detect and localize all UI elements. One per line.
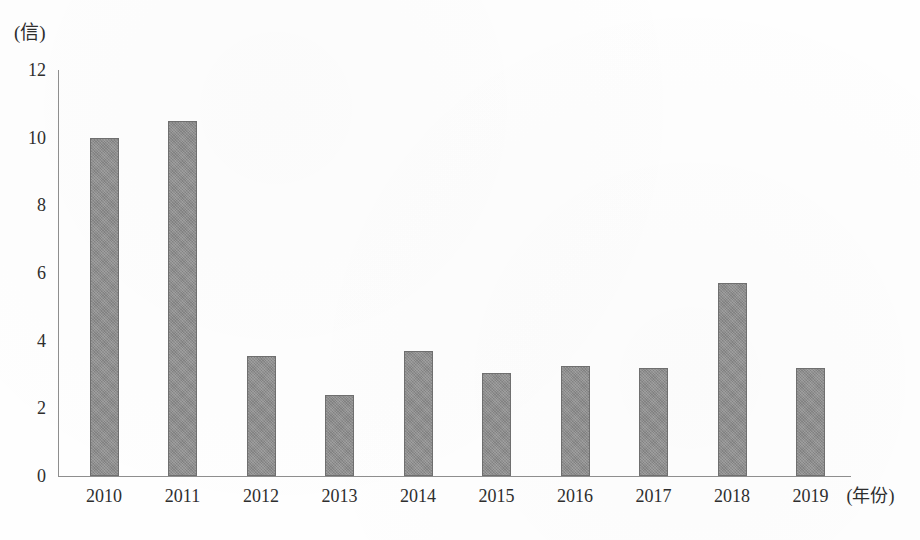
- x-tick-label-2016: 2016: [557, 484, 593, 508]
- x-tick-label-2019: 2019: [793, 484, 829, 508]
- plot-area: 024681012: [58, 70, 846, 476]
- bar-2011: [168, 121, 197, 476]
- bar-2016: [561, 366, 590, 476]
- bars-layer: [58, 70, 846, 476]
- bar-chart: (信) 024681012 20102011201220132014201520…: [0, 0, 920, 540]
- bar-2015: [482, 373, 511, 476]
- bar-2018: [718, 283, 747, 476]
- x-tick-label-2015: 2015: [479, 484, 515, 508]
- x-axis-tick-labels: 2010201120122013201420152016201720182019…: [58, 484, 920, 518]
- y-tick-label-0: 0: [37, 467, 46, 485]
- x-tick-label-2012: 2012: [243, 484, 279, 508]
- x-tick-label-2018: 2018: [714, 484, 750, 508]
- y-axis-unit-label: (信): [14, 22, 46, 44]
- x-axis-line: [58, 476, 851, 477]
- x-tick-label-2014: 2014: [400, 484, 436, 508]
- bar-2013: [325, 395, 354, 476]
- y-tick-label-6: 6: [37, 264, 46, 282]
- y-tick-label-4: 4: [37, 332, 46, 350]
- y-tick-label-8: 8: [37, 196, 46, 214]
- x-tick-label-2011: 2011: [165, 484, 200, 508]
- y-tick-label-2: 2: [37, 399, 46, 417]
- bar-2012: [247, 356, 276, 476]
- bar-2019: [796, 368, 825, 476]
- y-tick-label-12: 12: [28, 61, 46, 79]
- bar-2017: [639, 368, 668, 476]
- x-tick-label-2017: 2017: [636, 484, 672, 508]
- bar-2010: [90, 138, 119, 476]
- bar-2014: [404, 351, 433, 476]
- x-tick-label-2013: 2013: [322, 484, 358, 508]
- y-tick-label-10: 10: [28, 129, 46, 147]
- x-tick-label-2010: 2010: [86, 484, 122, 508]
- x-axis-unit-label: (年份): [847, 484, 895, 508]
- y-axis-tick-labels: 024681012: [0, 70, 58, 476]
